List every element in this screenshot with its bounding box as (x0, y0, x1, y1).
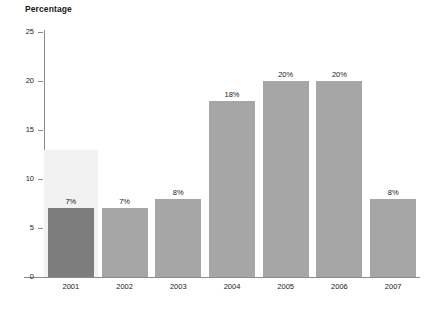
x-tick-label: 2001 (48, 282, 94, 291)
y-tick-label-text: 5 (30, 223, 34, 232)
y-tick-label-text: 25 (26, 27, 34, 36)
y-tick-mark (38, 179, 43, 180)
y-tick-label-text: 10 (26, 174, 34, 183)
y-tick-label: 25 (12, 27, 34, 37)
y-tick-mark (38, 81, 43, 82)
y-tick-label: 10 (12, 174, 34, 184)
bar-value-label: 8% (155, 188, 201, 197)
bar (263, 81, 309, 277)
y-tick-mark (38, 277, 43, 278)
bar (370, 199, 416, 277)
x-tick-label: 2004 (209, 282, 255, 291)
x-tick-label: 2007 (370, 282, 416, 291)
y-tick-label: 20 (12, 76, 34, 86)
bar-value-label: 7% (102, 197, 148, 206)
bar (155, 199, 201, 277)
bar (316, 81, 362, 277)
y-tick-label-text: 0 (30, 272, 34, 281)
y-tick-mark (38, 130, 43, 131)
x-tick-label: 2006 (316, 282, 362, 291)
y-tick-mark (38, 32, 43, 33)
bar-chart: Percentage 0510152025 7%7%8%18%20%20%8% … (0, 0, 429, 309)
y-tick-label: 0 (12, 272, 34, 282)
bar-value-label: 18% (209, 90, 255, 99)
bar-value-label: 20% (316, 70, 362, 79)
plot-area: 7%7%8%18%20%20%8% (44, 32, 420, 277)
y-tick-mark (38, 228, 43, 229)
x-tick-label: 2003 (155, 282, 201, 291)
bar-value-label: 7% (48, 197, 94, 206)
y-tick-label: 15 (12, 125, 34, 135)
y-tick-label-text: 15 (26, 125, 34, 134)
y-tick-label-text: 20 (26, 76, 34, 85)
x-tick-label: 2005 (263, 282, 309, 291)
bar (209, 101, 255, 277)
bar-value-label: 8% (370, 188, 416, 197)
chart-title: Percentage (25, 4, 72, 14)
x-tick-label: 2002 (102, 282, 148, 291)
y-tick-label: 5 (12, 223, 34, 233)
bar (48, 208, 94, 277)
bar-value-label: 20% (263, 70, 309, 79)
bar (102, 208, 148, 277)
